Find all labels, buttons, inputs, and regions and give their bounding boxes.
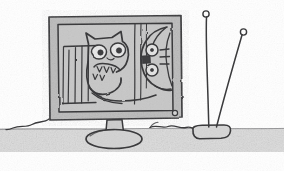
paper-grain-overlay xyxy=(0,0,284,171)
sketch-illustration xyxy=(0,0,284,171)
sketch-canvas: Hand-drawn sketch of a computer monitor … xyxy=(0,0,284,171)
